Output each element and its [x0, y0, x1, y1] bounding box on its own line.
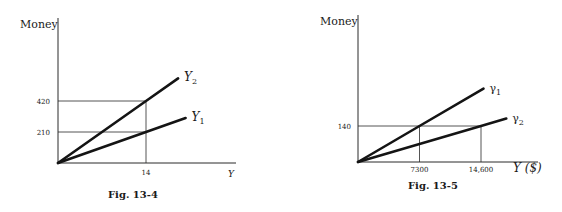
series-label: Y2 — [184, 70, 197, 86]
series-line — [58, 78, 178, 163]
figure-13-5: Money Fig. 13-5 Y ($) 140730014,600γ1γ2 — [320, 15, 542, 191]
figures-canvas: Money Fig. 13-4 Y 21042014Y2Y1 Money Fig… — [0, 0, 562, 212]
series-label: γ1 — [490, 82, 502, 97]
y-tick-label: 140 — [338, 123, 351, 131]
figure-caption: Fig. 13-4 — [108, 189, 158, 200]
x-axis-title: Y — [228, 169, 235, 179]
series-line — [358, 89, 484, 162]
y-axis-title: Money — [320, 15, 358, 28]
figure-caption: Fig. 13-5 — [408, 180, 458, 191]
series-line — [58, 118, 186, 163]
series-label: Y1 — [192, 110, 205, 126]
series-label: γ2 — [512, 112, 524, 127]
x-tick-label: 14 — [142, 169, 151, 177]
x-tick-label: 14,600 — [469, 166, 494, 174]
series-line — [358, 119, 506, 163]
y-tick-label: 210 — [37, 129, 50, 137]
x-tick-label: 7300 — [411, 166, 429, 174]
y-axis-title: Money — [20, 18, 58, 31]
y-tick-label: 420 — [37, 98, 50, 106]
x-axis-title: Y ($) — [513, 161, 542, 175]
figure-13-4: Money Fig. 13-4 Y 21042014Y2Y1 — [20, 18, 236, 200]
